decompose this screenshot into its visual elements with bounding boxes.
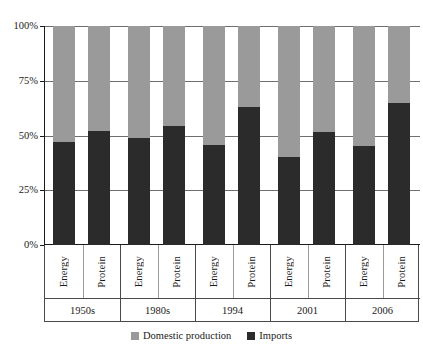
legend-swatch-icon bbox=[247, 332, 255, 340]
x-series-label-protein: Protein bbox=[83, 245, 121, 298]
legend-label: Imports bbox=[259, 330, 292, 341]
bar-segment-imports[interactable] bbox=[128, 138, 150, 245]
x-group-2001: EnergyProtein2001 bbox=[270, 245, 345, 321]
bar-segment-domestic-production[interactable] bbox=[203, 26, 225, 145]
x-series-label-protein: Protein bbox=[308, 245, 346, 298]
x-series-label-protein: Protein bbox=[233, 245, 271, 298]
legend-item[interactable]: Imports bbox=[247, 330, 292, 341]
bar-segment-domestic-production[interactable] bbox=[163, 26, 185, 126]
chart-figure: 100%75%50%25%0% EnergyProtein1950sEnergy… bbox=[0, 0, 423, 352]
bar-2001-protein[interactable] bbox=[313, 26, 335, 245]
bar-segment-domestic-production[interactable] bbox=[88, 26, 110, 131]
y-tick-label: 100% bbox=[0, 20, 38, 31]
x-group-2006: EnergyProtein2006 bbox=[345, 245, 420, 321]
bar-1980s-protein[interactable] bbox=[163, 26, 185, 245]
bar-segment-domestic-production[interactable] bbox=[238, 26, 260, 107]
bar-segment-domestic-production[interactable] bbox=[128, 26, 150, 138]
bar-segment-imports[interactable] bbox=[353, 146, 375, 245]
bar-segment-imports[interactable] bbox=[313, 132, 335, 245]
bar-1950s-protein[interactable] bbox=[88, 26, 110, 245]
plot-area bbox=[44, 26, 420, 245]
x-group-label: 1950s bbox=[45, 298, 120, 322]
bar-1950s-energy[interactable] bbox=[53, 26, 75, 245]
y-tick-label: 25% bbox=[0, 184, 38, 195]
bar-segment-domestic-production[interactable] bbox=[353, 26, 375, 146]
y-tick-label: 50% bbox=[0, 130, 38, 141]
x-series-label-text: Protein bbox=[96, 256, 107, 288]
x-series-label-energy: Energy bbox=[270, 245, 308, 298]
x-group-label: 2001 bbox=[270, 298, 345, 322]
x-group-label: 1994 bbox=[195, 298, 270, 322]
x-series-label-text: Energy bbox=[358, 256, 369, 287]
x-series-label-text: Protein bbox=[321, 256, 332, 288]
x-series-label-protein: Protein bbox=[158, 245, 196, 298]
bar-segment-imports[interactable] bbox=[53, 142, 75, 245]
x-group-1950s: EnergyProtein1950s bbox=[45, 245, 120, 321]
legend-swatch-icon bbox=[131, 332, 139, 340]
x-series-label-text: Protein bbox=[396, 256, 407, 288]
legend-item[interactable]: Domestic production bbox=[131, 330, 231, 341]
x-series-label-text: Energy bbox=[133, 256, 144, 287]
x-series-label-energy: Energy bbox=[345, 245, 383, 298]
x-series-label-text: Energy bbox=[283, 256, 294, 287]
legend-label: Domestic production bbox=[143, 330, 231, 341]
bar-segment-domestic-production[interactable] bbox=[313, 26, 335, 132]
x-series-label-text: Protein bbox=[246, 256, 257, 288]
x-series-label-text: Energy bbox=[208, 256, 219, 287]
bar-segment-imports[interactable] bbox=[203, 145, 225, 245]
x-series-label-energy: Energy bbox=[195, 245, 233, 298]
bar-2006-protein[interactable] bbox=[388, 26, 410, 245]
x-series-label-energy: Energy bbox=[45, 245, 83, 298]
x-series-label-protein: Protein bbox=[383, 245, 421, 298]
bar-segment-domestic-production[interactable] bbox=[388, 26, 410, 103]
bar-2001-energy[interactable] bbox=[278, 26, 300, 245]
bar-segment-domestic-production[interactable] bbox=[53, 26, 75, 142]
x-series-label-text: Energy bbox=[58, 256, 69, 287]
x-group-label: 1980s bbox=[120, 298, 195, 322]
bar-segment-imports[interactable] bbox=[88, 131, 110, 245]
bar-segment-imports[interactable] bbox=[278, 157, 300, 245]
x-series-label-energy: Energy bbox=[120, 245, 158, 298]
bar-2006-energy[interactable] bbox=[353, 26, 375, 245]
y-tick-label: 0% bbox=[0, 239, 38, 250]
x-group-1980s: EnergyProtein1980s bbox=[120, 245, 195, 321]
bar-segment-imports[interactable] bbox=[238, 107, 260, 245]
x-group-label: 2006 bbox=[345, 298, 420, 322]
legend: Domestic productionImports bbox=[0, 330, 423, 341]
bar-1980s-energy[interactable] bbox=[128, 26, 150, 245]
x-series-label-text: Protein bbox=[171, 256, 182, 288]
x-axis-label-table: EnergyProtein1950sEnergyProtein1980sEner… bbox=[44, 245, 419, 322]
bar-segment-imports[interactable] bbox=[388, 103, 410, 245]
bar-segment-imports[interactable] bbox=[163, 126, 185, 245]
bar-1994-protein[interactable] bbox=[238, 26, 260, 245]
bar-segment-domestic-production[interactable] bbox=[278, 26, 300, 157]
x-group-1994: EnergyProtein1994 bbox=[195, 245, 270, 321]
y-tick-label: 75% bbox=[0, 75, 38, 86]
bar-1994-energy[interactable] bbox=[203, 26, 225, 245]
